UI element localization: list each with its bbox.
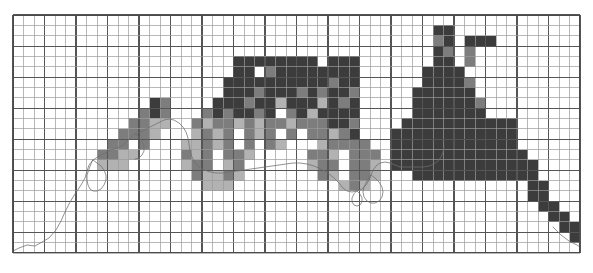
plot-border <box>14 16 580 253</box>
figure-canvas <box>0 0 593 273</box>
gridded-map-plot <box>13 15 580 253</box>
plot-frame-layer <box>13 15 580 253</box>
